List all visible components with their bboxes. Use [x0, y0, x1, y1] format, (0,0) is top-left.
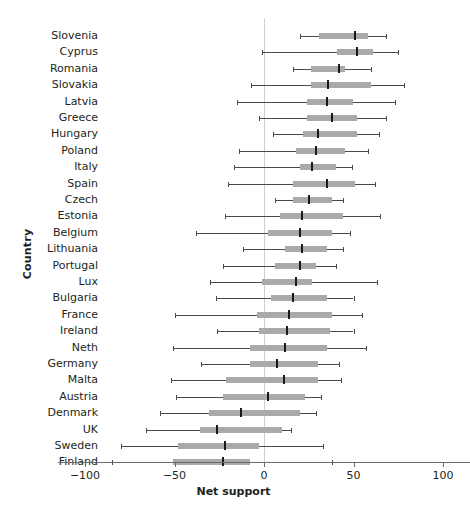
- median-marker: [311, 162, 313, 171]
- whisker-cap-low: [228, 182, 229, 187]
- boxplot-row: Cyprus: [0, 44, 467, 60]
- category-label: Denmark: [47, 405, 98, 421]
- whisker-cap-high: [343, 247, 344, 252]
- whisker-cap-high: [350, 231, 351, 236]
- whisker-cap-high: [404, 83, 405, 88]
- category-label: France: [61, 307, 98, 323]
- median-marker: [354, 31, 356, 40]
- boxplot-row: Lux: [0, 274, 467, 290]
- boxplot-row: Czech: [0, 192, 467, 208]
- whisker-cap-low: [223, 264, 224, 269]
- whisker-cap-high: [321, 395, 322, 400]
- x-tick-label: 0: [261, 469, 268, 482]
- median-marker: [338, 64, 340, 73]
- median-marker: [308, 195, 310, 204]
- category-label: Neth: [72, 340, 98, 356]
- median-marker: [292, 293, 294, 302]
- category-label: Portugal: [52, 258, 98, 274]
- category-label: Estonia: [58, 208, 99, 224]
- x-tick-label: 100: [433, 469, 454, 482]
- median-marker: [331, 113, 333, 122]
- median-marker: [224, 441, 226, 450]
- x-tick-label: 50: [347, 469, 361, 482]
- whisker-cap-low: [239, 149, 240, 154]
- whisker-cap-high: [368, 149, 369, 154]
- interquartile-box: [262, 279, 312, 285]
- category-label: Germany: [47, 356, 98, 372]
- whisker-cap-high: [323, 444, 324, 449]
- whisker-cap-low: [300, 34, 301, 39]
- whisker-cap-high: [354, 296, 355, 301]
- whisker-cap-low: [146, 428, 147, 433]
- whisker-cap-low: [275, 198, 276, 203]
- category-label: Poland: [61, 143, 98, 159]
- x-tick-label: −50: [163, 469, 186, 482]
- x-tick: [354, 462, 355, 467]
- interquartile-box: [293, 197, 332, 203]
- boxplot-row: Ireland: [0, 323, 467, 339]
- category-label: Bulgaria: [52, 290, 98, 306]
- whisker-cap-low: [293, 67, 294, 72]
- whisker-cap-high: [398, 50, 399, 55]
- boxplot-row: Latvia: [0, 94, 467, 110]
- whisker-cap-low: [196, 231, 197, 236]
- boxplot-row: Poland: [0, 143, 467, 159]
- median-marker: [295, 277, 297, 286]
- boxplot-row: Denmark: [0, 405, 467, 421]
- median-marker: [315, 146, 317, 155]
- category-label: Czech: [65, 192, 98, 208]
- boxplot-row: Spain: [0, 176, 467, 192]
- category-label: Greece: [59, 110, 98, 126]
- category-label: Italy: [74, 159, 98, 175]
- whisker-cap-high: [395, 100, 396, 105]
- median-marker: [240, 408, 242, 417]
- interquartile-box: [209, 410, 300, 416]
- category-label: Lithuania: [47, 241, 98, 257]
- interquartile-box: [259, 328, 331, 334]
- median-marker: [216, 425, 218, 434]
- boxplot-row: Austria: [0, 389, 467, 405]
- median-marker: [301, 211, 303, 220]
- category-label: Austria: [59, 389, 98, 405]
- median-marker: [276, 359, 278, 368]
- x-tick: [175, 462, 176, 467]
- whisker-cap-high: [291, 428, 292, 433]
- interquartile-box: [311, 82, 372, 88]
- interquartile-box: [271, 295, 326, 301]
- interquartile-box: [223, 394, 305, 400]
- whisker-cap-low: [243, 247, 244, 252]
- boxplot-row: Romania: [0, 61, 467, 77]
- boxplot-row: France: [0, 307, 467, 323]
- boxplot-row: Lithuania: [0, 241, 467, 257]
- category-label: Slovakia: [52, 77, 98, 93]
- whisker-cap-high: [386, 34, 387, 39]
- whisker-cap-low: [259, 116, 260, 121]
- interquartile-box: [285, 246, 326, 252]
- whisker-cap-high: [386, 116, 387, 121]
- boxplot-row: UK: [0, 422, 467, 438]
- whisker-cap-low: [262, 50, 263, 55]
- category-label: Belgium: [53, 225, 98, 241]
- interquartile-box: [250, 345, 327, 351]
- whisker-cap-low: [234, 165, 235, 170]
- boxplot-row: Neth: [0, 340, 467, 356]
- whisker-cap-high: [343, 198, 344, 203]
- category-label: Slovenia: [51, 28, 98, 44]
- whisker-line: [262, 52, 398, 53]
- x-tick-label: −100: [70, 469, 100, 482]
- whisker-cap-high: [336, 264, 337, 269]
- boxplot-row: Italy: [0, 159, 467, 175]
- category-label: Hungary: [51, 126, 98, 142]
- whisker-cap-high: [316, 411, 317, 416]
- whisker-cap-high: [380, 214, 381, 219]
- whisker-cap-low: [273, 132, 274, 137]
- whisker-cap-high: [366, 346, 367, 351]
- whisker-cap-low: [175, 313, 176, 318]
- median-marker: [326, 97, 328, 106]
- x-axis-label: Net support: [0, 485, 467, 498]
- median-marker: [299, 261, 301, 270]
- median-marker: [299, 228, 301, 237]
- interquartile-box: [293, 181, 356, 187]
- median-marker: [317, 129, 319, 138]
